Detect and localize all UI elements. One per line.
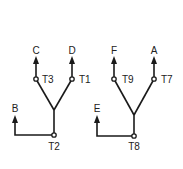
label-t2: T2 (48, 141, 60, 152)
arrow-up-icon (151, 56, 157, 64)
right-diagram: F A T9 T7 E T8 (94, 45, 173, 152)
label-e: E (94, 103, 101, 114)
label-b: B (12, 103, 19, 114)
label-t3: T3 (42, 74, 54, 85)
label-d: D (68, 45, 75, 56)
terminal-node-t1 (70, 77, 74, 81)
left-diagram: C D T3 T1 B T2 (12, 45, 91, 152)
wire-t8-e (97, 122, 134, 136)
label-a: A (151, 45, 158, 56)
label-f: F (111, 45, 117, 56)
label-t8: T8 (128, 141, 140, 152)
arrow-up-icon (33, 56, 39, 64)
terminal-diagram: C D T3 T1 B T2 F A T9 T7 E T8 (0, 0, 183, 169)
terminal-node-t7 (152, 77, 156, 81)
label-t9: T9 (122, 74, 134, 85)
label-c: C (32, 45, 39, 56)
arrow-up-icon (111, 56, 117, 64)
terminal-node-t2 (52, 133, 56, 137)
arrow-up-icon (12, 115, 18, 123)
terminal-node-t8 (132, 134, 136, 138)
terminal-node-t3 (34, 77, 38, 81)
label-t1: T1 (79, 74, 91, 85)
wire-t7-junction (134, 79, 154, 115)
wire-t1-junction (54, 79, 72, 110)
wire-t2-b (15, 122, 54, 135)
terminal-node-t9 (112, 77, 116, 81)
arrow-up-icon (69, 56, 75, 64)
arrow-up-icon (94, 115, 100, 123)
label-t7: T7 (161, 74, 173, 85)
